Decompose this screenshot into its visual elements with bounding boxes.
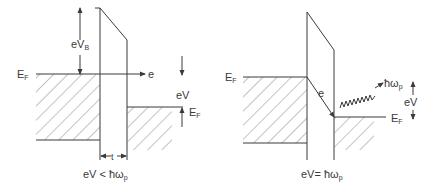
left-fermi-label: EF [17, 68, 29, 81]
barrier-height-label: eVB [71, 38, 89, 51]
right-fermi-label: EF [391, 112, 403, 125]
photon-wavy-line [340, 95, 375, 108]
tunnel-barrier [307, 12, 334, 160]
right-condition-label: eV= ħωp [301, 168, 343, 182]
electron-label: e [148, 68, 154, 80]
tunnel-barrier [100, 8, 127, 160]
photon-arrow [375, 83, 383, 88]
left-panel: EF eVB e eV EF t eV < ħωp [17, 8, 201, 182]
photon-label: ħωp [384, 77, 403, 91]
right-electrode-filled-states [127, 107, 172, 150]
bias-label: eV [404, 96, 418, 108]
left-electrode-filled-states [243, 77, 307, 143]
bias-label: eV [176, 89, 190, 101]
electron-label: e [318, 87, 324, 99]
left-electrode-filled-states [36, 74, 100, 140]
tunnel-junction-diagram: EF eVB e eV EF t eV < ħωp EF e ħωp eV EF… [0, 0, 438, 195]
left-fermi-label: EF [225, 71, 237, 84]
right-electrode-filled-states [334, 117, 374, 150]
right-fermi-label: EF [189, 106, 201, 119]
right-panel: EF e ħωp eV EF eV= ħωp [225, 12, 418, 182]
thickness-label: t [111, 152, 114, 162]
left-condition-label: eV < ħωp [83, 168, 128, 182]
